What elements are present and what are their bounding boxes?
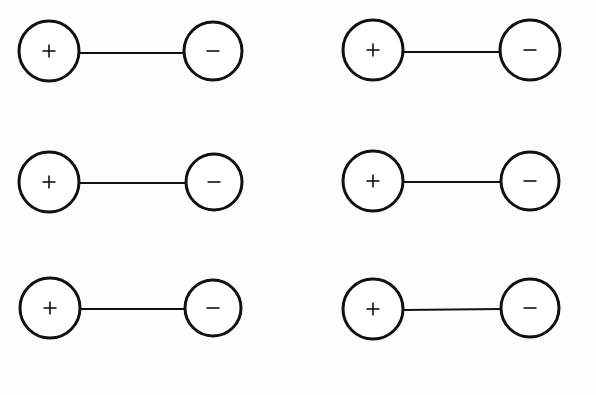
bond-line-r3c2 xyxy=(403,309,501,310)
dipole-r2c1[interactable] xyxy=(19,152,242,212)
figure-canvas xyxy=(0,0,596,395)
dipole-r1c1[interactable] xyxy=(19,21,242,81)
dipole-r3c1[interactable] xyxy=(20,278,241,338)
dipole-r2c2[interactable] xyxy=(343,151,559,211)
dipole-array-figure xyxy=(0,0,596,395)
dipole-r1c2[interactable] xyxy=(343,20,560,80)
dipole-r3c2[interactable] xyxy=(343,279,559,339)
